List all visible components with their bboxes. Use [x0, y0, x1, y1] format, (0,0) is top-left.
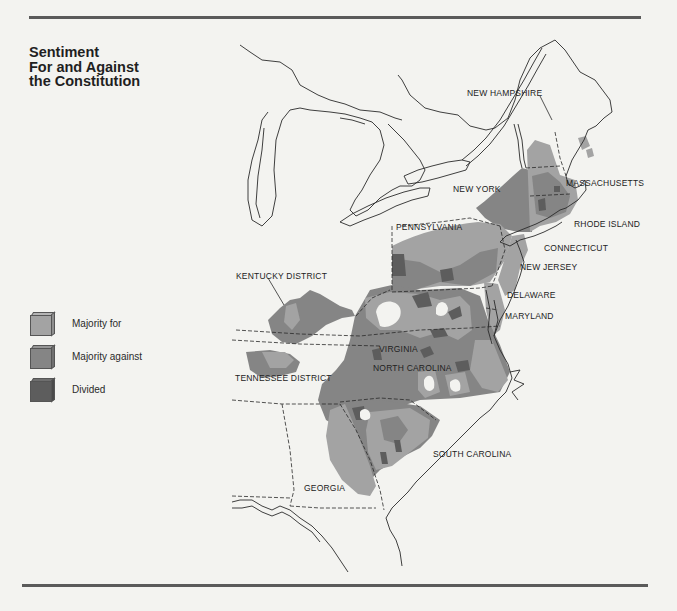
label-north-carolina: NORTH CAROLINA	[373, 363, 452, 373]
label-georgia: GEORGIA	[304, 483, 345, 493]
legend-label-divided: Divided	[72, 384, 105, 395]
swatch-divided	[30, 378, 55, 402]
map-canvas	[0, 0, 677, 611]
region-new-york-against	[476, 168, 532, 232]
lake-huron	[310, 110, 425, 216]
legend-item-majority-against: Majority against	[30, 345, 190, 378]
lake-ontario	[404, 160, 470, 184]
swatch-majority-for	[30, 312, 55, 336]
label-new-jersey: NEW JERSEY	[520, 262, 577, 272]
kentucky-pointer	[268, 278, 284, 305]
border-west-ga	[232, 496, 290, 498]
label-new-york: NEW YORK	[453, 184, 501, 194]
label-connecticut: CONNECTICUT	[544, 243, 608, 253]
label-virginia: VIRGINIA	[379, 344, 418, 354]
border-ga-fl	[290, 506, 376, 508]
label-tennessee-district: TENNESSEE DISTRICT	[235, 373, 332, 383]
legend-label-majority-against: Majority against	[72, 351, 142, 362]
label-massachusetts: MASSACHUSETTS	[566, 178, 644, 188]
st-lawrence	[462, 48, 542, 160]
nh-pointer	[540, 96, 552, 120]
legend-item-divided: Divided	[30, 378, 190, 411]
label-pennsylvania: PENNSYLVANIA	[396, 222, 462, 232]
label-kentucky-district: KENTUCKY DISTRICT	[236, 271, 327, 281]
label-new-hampshire: NEW HAMPSHIRE	[467, 88, 542, 98]
gulf-coast	[232, 500, 348, 572]
canada-coast	[240, 45, 402, 120]
legend-label-majority-for: Majority for	[72, 318, 121, 329]
region-kentucky-against	[268, 290, 355, 344]
legend: Majority for Majority against Divided	[30, 312, 190, 411]
swatch-majority-against	[30, 345, 55, 369]
border-ga-west	[282, 404, 294, 506]
label-south-carolina: SOUTH CAROLINA	[433, 449, 511, 459]
label-maryland: MARYLAND	[505, 311, 554, 321]
legend-item-majority-for: Majority for	[30, 312, 190, 345]
lake-erie	[340, 188, 430, 226]
label-delaware: DELAWARE	[507, 290, 556, 300]
label-rhode-island: RHODE ISLAND	[574, 219, 640, 229]
